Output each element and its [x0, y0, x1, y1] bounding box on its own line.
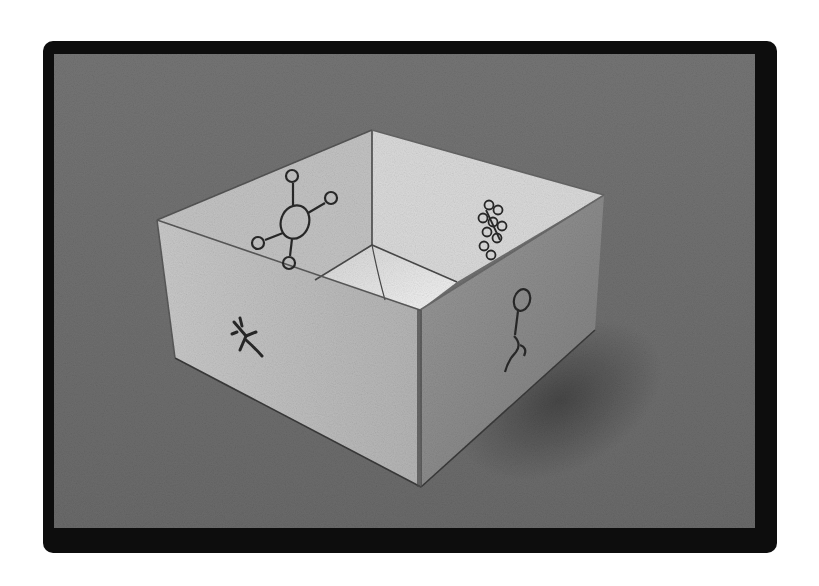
paper-box-photo: [54, 54, 755, 528]
front-crease: [417, 310, 422, 487]
